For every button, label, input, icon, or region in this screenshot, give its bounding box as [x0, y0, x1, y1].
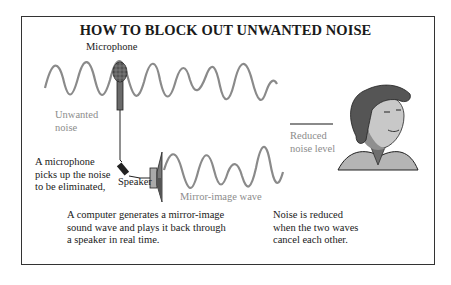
person-illustration	[338, 85, 418, 170]
cable-plug-icon	[117, 162, 129, 175]
step1-caption: A microphone picks up the noise to be el…	[35, 156, 111, 194]
reduced-noise-label: Reduced noise level	[290, 130, 335, 155]
unwanted-noise-wave	[45, 61, 277, 100]
speaker-label: Speaker	[118, 176, 152, 189]
mirror-image-wave-label: Mirror-image wave	[180, 191, 262, 204]
step2-caption: A computer generates a mirror-image soun…	[67, 209, 226, 247]
microphone-label: Microphone	[86, 41, 137, 54]
unwanted-noise-label: Unwanted noise	[55, 109, 98, 134]
microphone-icon	[113, 62, 127, 110]
mirror-image-wave	[164, 147, 283, 188]
step3-caption: Noise is reduced when the two waves canc…	[273, 209, 358, 247]
